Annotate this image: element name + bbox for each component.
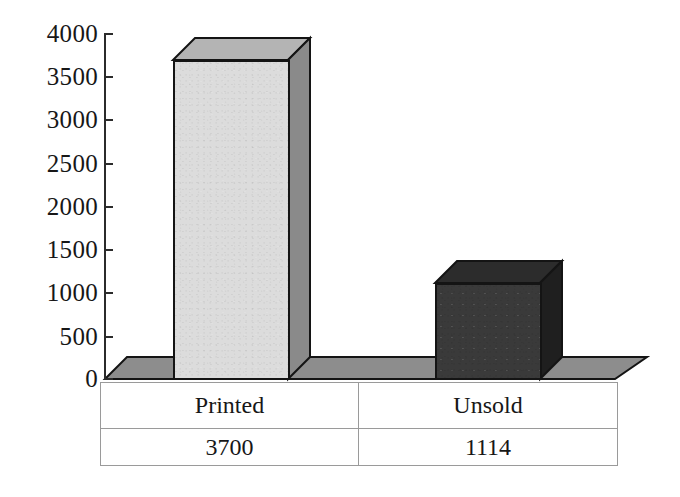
y-tick-label-3000-wrap: 3000 <box>0 107 98 132</box>
y-tick-label-4000: 4000 <box>47 21 98 46</box>
table-cell-category-printed: Printed <box>101 383 359 429</box>
y-tick-label-1500-wrap: 1500 <box>0 237 98 262</box>
y-tick-500 <box>104 336 113 338</box>
bar-chart: 4000 3500 3000 2500 2000 1500 1000 500 0 <box>0 0 680 497</box>
y-tick-label-500-wrap: 500 <box>0 324 98 349</box>
y-tick-2000 <box>104 206 113 208</box>
y-tick-label-0: 0 <box>85 366 98 391</box>
y-tick-label-3500: 3500 <box>47 64 98 89</box>
y-tick-label-4000-wrap: 4000 <box>0 21 98 46</box>
chart-data-table: Printed Unsold 3700 1114 <box>100 382 618 466</box>
bar-unsold-top-face <box>435 261 562 283</box>
y-tick-label-1500: 1500 <box>47 237 98 262</box>
table-row-values: 3700 1114 <box>101 429 618 466</box>
bar-unsold-texture <box>437 285 540 378</box>
y-tick-label-2500-wrap: 2500 <box>0 151 98 176</box>
bar-printed-front-face <box>173 60 290 380</box>
y-tick-label-500: 500 <box>60 324 98 349</box>
y-tick-label-1000-wrap: 1000 <box>0 280 98 305</box>
bar-unsold-front-face <box>435 283 542 380</box>
y-tick-label-1000: 1000 <box>47 280 98 305</box>
bar-printed-side-face <box>288 38 310 379</box>
y-tick-label-3000: 3000 <box>47 107 98 132</box>
y-tick-label-2500: 2500 <box>47 151 98 176</box>
y-tick-label-0-wrap: 0 <box>0 366 98 391</box>
bar-unsold-side-face <box>540 261 562 379</box>
y-tick-label-3500-wrap: 3500 <box>0 64 98 89</box>
y-tick-3000 <box>104 119 113 121</box>
y-tick-label-2000-wrap: 2000 <box>0 194 98 219</box>
y-tick-3500 <box>104 76 113 78</box>
y-tick-1000 <box>104 292 113 294</box>
y-tick-label-2000: 2000 <box>47 194 98 219</box>
table-cell-category-unsold: Unsold <box>359 383 618 429</box>
table-row-categories: Printed Unsold <box>101 383 618 429</box>
bar-printed-texture <box>175 62 288 378</box>
table-cell-value-unsold: 1114 <box>359 429 618 466</box>
y-tick-2500 <box>104 163 113 165</box>
bar-printed-top-face <box>173 38 310 60</box>
y-tick-1500 <box>104 249 113 251</box>
table-cell-value-printed: 3700 <box>101 429 359 466</box>
y-tick-4000 <box>104 33 113 35</box>
y-tick-0 <box>104 378 113 380</box>
